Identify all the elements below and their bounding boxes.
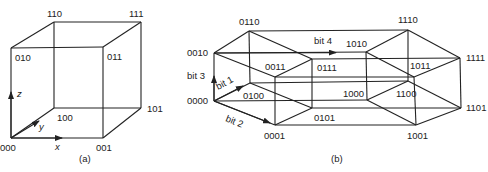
edge-1001-1101 (416, 108, 461, 125)
vertex-label-0010: 0010 (187, 47, 208, 58)
vertex-label-1010: 1010 (346, 38, 367, 49)
vertex-label-001: 001 (96, 142, 112, 153)
edge-0110-1110 (249, 30, 408, 31)
vertex-label-111: 111 (129, 8, 143, 19)
panel-a-edges (11, 22, 141, 138)
vertex-label-1000: 1000 (343, 88, 364, 99)
vertex-label-1111: 1111 (466, 52, 485, 63)
vertex-label-1001: 1001 (407, 130, 428, 141)
hypercube-diagram: 000001010011100101110111 xyz (a) 0000000… (0, 0, 488, 172)
edge-1101-1111 (460, 58, 461, 108)
edge-010-011 (11, 47, 103, 48)
y-axis-arrow-icon (11, 121, 39, 138)
edge-0111-1111 (312, 58, 460, 59)
edge-0110-0111 (249, 31, 312, 59)
edge-001-101 (103, 108, 141, 138)
vertex-label-100: 100 (57, 112, 73, 123)
vertex-label-1110: 1110 (398, 14, 418, 25)
vertex-label-011: 011 (107, 51, 122, 62)
vertex-label-1011: 1011 (410, 60, 430, 71)
dimension-label-bit3: bit 3 (187, 70, 205, 81)
dimension-label-bit1: bit 1 (214, 74, 235, 92)
vertex-label-010: 010 (15, 52, 31, 63)
vertex-label-000: 000 (0, 142, 16, 153)
vertex-label-0110: 0110 (239, 16, 259, 27)
edge-1010-1110 (366, 30, 408, 52)
panel-a-caption: (a) (79, 153, 91, 164)
vertex-label-0001: 0001 (264, 130, 285, 141)
vertex-label-110: 110 (47, 8, 62, 19)
edge-0010-0110 (214, 31, 249, 53)
vertex-label-0011: 0011 (265, 61, 285, 72)
edge-011-111 (103, 22, 141, 47)
vertex-label-101: 101 (147, 103, 163, 114)
vertex-label-1101: 1101 (466, 102, 486, 113)
axis-label-x: x (54, 141, 61, 152)
panel-b-4cube: 0000000100100011010001010110011110001001… (187, 14, 486, 164)
edge-0100-0110 (249, 31, 250, 83)
axis-label-y: y (38, 121, 45, 132)
vertex-label-1100: 1100 (396, 88, 416, 99)
panel-b-caption: (b) (331, 153, 343, 164)
vertex-label-0101: 0101 (314, 112, 335, 123)
edge-0001-0101 (275, 108, 312, 125)
edge-010-110 (11, 22, 54, 48)
dimension-label-bit2: bit 2 (224, 113, 245, 130)
vertex-label-0100: 0100 (243, 90, 264, 101)
axis-label-z: z (16, 88, 22, 99)
edge-1110-1111 (408, 30, 460, 58)
edge-0100-1100 (250, 81, 408, 83)
panel-b-edges (214, 30, 461, 125)
edge-0000-1000 (214, 100, 367, 101)
panel-a-vertex-labels: 000001010011100101110111 (0, 8, 163, 153)
dimension-label-bit4: bit 4 (314, 35, 332, 46)
vertex-label-0111: 0111 (317, 62, 337, 73)
edge-1000-1001 (367, 100, 416, 125)
vertex-label-0000: 0000 (187, 95, 208, 106)
edge-1000-1010 (366, 52, 367, 100)
edge-1010-1011 (366, 52, 414, 77)
panel-a-3cube: 000001010011100101110111 xyz (a) (0, 8, 163, 164)
